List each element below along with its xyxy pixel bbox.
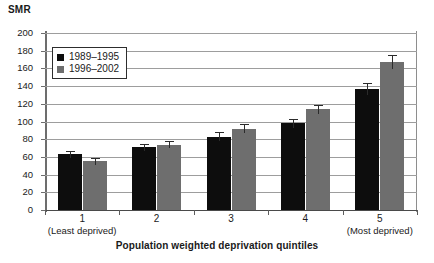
y-tick-mark-20 [41, 192, 45, 193]
bar-group-quintile-5 [355, 33, 404, 210]
legend-label-series-0: 1989–1995 [69, 52, 119, 62]
bar-series-0-quintile-5 [355, 89, 379, 210]
y-tick-mark-40 [41, 175, 45, 176]
legend-label-series-1: 1996–2002 [69, 64, 119, 74]
error-cap-top-series-0-quintile-5 [363, 83, 372, 84]
y-axis-title: SMR [8, 4, 31, 15]
x-tick-mark-origin [45, 210, 46, 215]
x-category-label-5: 5 [350, 213, 410, 224]
bar-series-1-quintile-4 [306, 109, 330, 210]
bar-series-1-quintile-1 [83, 161, 107, 210]
error-cap-top-series-1-quintile-5 [388, 55, 397, 56]
bar-group-quintile-2 [132, 33, 181, 210]
bar-series-0-quintile-2 [132, 147, 156, 210]
error-bar-series-1-quintile-3 [244, 124, 245, 133]
error-bar-series-0-quintile-1 [70, 151, 71, 158]
y-tick-label-60: 60 [5, 152, 33, 162]
legend-item-series-1: 1996–2002 [57, 63, 119, 75]
y-tick-label-180: 180 [5, 46, 33, 56]
error-bar-series-0-quintile-2 [144, 144, 145, 151]
y-tick-mark-80 [41, 139, 45, 140]
bar-series-1-quintile-3 [232, 129, 256, 210]
error-bar-series-0-quintile-4 [293, 119, 294, 128]
bar-series-1-quintile-5 [380, 62, 404, 210]
error-bar-series-1-quintile-2 [169, 141, 170, 148]
x-axis-most-deprived-label: (Most deprived) [320, 225, 434, 236]
bar-series-0-quintile-4 [281, 123, 305, 210]
x-tick-mark-1 [119, 210, 120, 215]
bar-series-0-quintile-1 [58, 154, 82, 210]
legend-swatch-icon-series-1 [57, 66, 64, 73]
x-tick-mark-3 [268, 210, 269, 215]
y-tick-label-120: 120 [5, 99, 33, 109]
legend-swatch-icon-series-0 [57, 54, 64, 61]
y-tick-mark-0 [41, 210, 45, 211]
x-axis-title: Population weighted deprivation quintile… [0, 240, 434, 251]
bar-group-quintile-4 [281, 33, 330, 210]
y-tick-mark-120 [41, 104, 45, 105]
error-cap-top-series-0-quintile-4 [289, 119, 298, 120]
y-tick-label-20: 20 [5, 187, 33, 197]
y-tick-label-200: 200 [5, 28, 33, 38]
y-tick-mark-160 [41, 68, 45, 69]
x-category-label-1: 1 [52, 213, 112, 224]
bar-group-quintile-3 [207, 33, 256, 210]
x-tick-mark-2 [194, 210, 195, 215]
y-tick-mark-200 [41, 33, 45, 34]
error-cap-top-series-1-quintile-2 [165, 141, 174, 142]
error-bar-series-1-quintile-4 [318, 105, 319, 114]
error-cap-top-series-1-quintile-3 [240, 124, 249, 125]
error-bar-series-1-quintile-5 [392, 55, 393, 69]
error-bar-series-1-quintile-1 [95, 158, 96, 165]
error-cap-top-series-0-quintile-3 [215, 132, 224, 133]
error-bar-series-0-quintile-3 [219, 132, 220, 141]
x-category-label-2: 2 [127, 213, 187, 224]
error-cap-top-series-0-quintile-2 [140, 144, 149, 145]
x-category-label-4: 4 [275, 213, 335, 224]
x-tick-mark-5 [417, 210, 418, 215]
bar-series-0-quintile-3 [207, 137, 231, 210]
smr-deprivation-bar-chart: SMR 1989–1995 1996–2002 Population weigh… [0, 0, 434, 263]
x-axis-least-deprived-label: (Least deprived) [22, 225, 142, 236]
y-tick-label-140: 140 [5, 81, 33, 91]
y-tick-label-160: 160 [5, 63, 33, 73]
x-tick-mark-4 [343, 210, 344, 215]
chart-legend: 1989–1995 1996–2002 [52, 47, 127, 79]
y-tick-mark-100 [41, 122, 45, 123]
error-cap-top-series-0-quintile-1 [66, 151, 75, 152]
legend-item-series-0: 1989–1995 [57, 51, 119, 63]
y-tick-label-80: 80 [5, 134, 33, 144]
y-tick-mark-180 [41, 51, 45, 52]
y-tick-label-100: 100 [5, 117, 33, 127]
error-cap-top-series-1-quintile-1 [91, 158, 100, 159]
gridline-0 [45, 210, 417, 211]
error-cap-top-series-1-quintile-4 [314, 105, 323, 106]
error-bar-series-0-quintile-5 [367, 83, 368, 95]
y-tick-mark-60 [41, 157, 45, 158]
bar-series-1-quintile-2 [157, 145, 181, 210]
y-tick-label-0: 0 [5, 205, 33, 215]
y-tick-mark-140 [41, 86, 45, 87]
x-category-label-3: 3 [201, 213, 261, 224]
y-tick-label-40: 40 [5, 170, 33, 180]
